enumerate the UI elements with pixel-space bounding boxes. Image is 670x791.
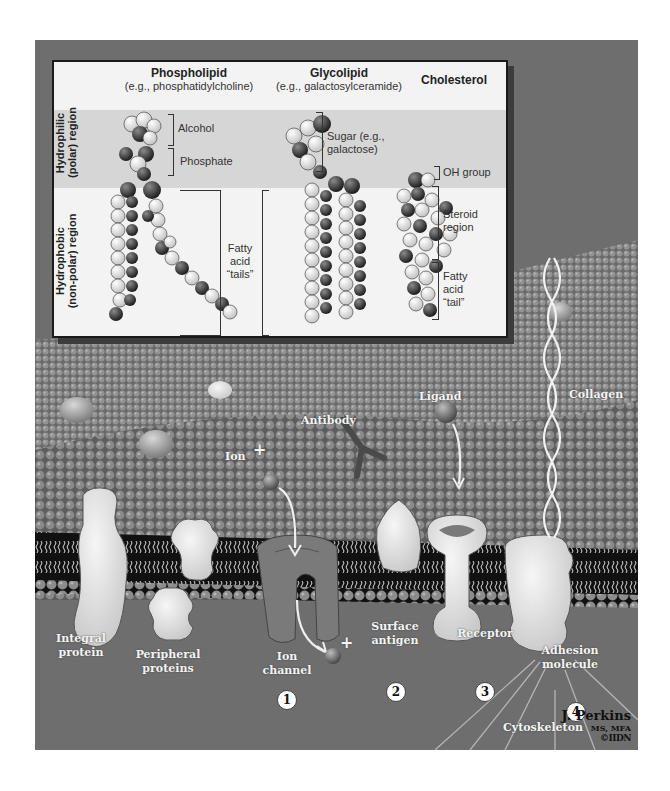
integral-protein-label: Integral protein — [51, 632, 111, 660]
ligand-label: Ligand — [419, 390, 461, 404]
callout-number-3: 3 — [475, 682, 495, 702]
label-line: Hydrophilic — [54, 108, 66, 178]
ion-label: Ion — [225, 450, 245, 464]
column-title: Glycolipid — [264, 66, 414, 80]
label-line: Hydrophobic — [54, 192, 66, 330]
column-cholesterol: Cholesterol — [404, 73, 504, 87]
antibody-label: Antibody — [301, 414, 356, 428]
fatty-acid-tails-label: Fatty acid “tails” — [224, 242, 256, 281]
column-subtitle: (e.g., phosphatidylcholine) — [114, 80, 264, 92]
collagen-label: Collagen — [569, 388, 623, 402]
alcohol-bracket — [168, 114, 174, 146]
fatty-acid-tails-bracket — [180, 190, 221, 336]
steroid-bracket — [432, 186, 439, 260]
label-line: Steroid — [443, 208, 478, 221]
artist-signature: J. Perkins MS, MFA ©IIDN — [555, 708, 631, 743]
label-line: Surface — [365, 620, 425, 634]
hydrophobic-region-label: Hydrophobic (non-polar) region — [54, 192, 78, 330]
artist-degrees: MS, MFA — [555, 723, 631, 733]
ion-charge-plus: + — [253, 443, 266, 457]
diagram-frame: Phospholipid (e.g., phosphatidylcholine)… — [35, 40, 638, 750]
label-line: acid — [224, 255, 256, 268]
peripheral-proteins-label: Peripheral proteins — [133, 648, 203, 676]
label-line: molecule — [540, 658, 600, 672]
surface-antigen-label: Surface antigen — [365, 620, 425, 648]
column-phospholipid: Phospholipid (e.g., phosphatidylcholine) — [114, 66, 264, 92]
label-line: (non-polar) region — [66, 192, 78, 330]
label-line: “tails” — [224, 268, 256, 281]
chol-tail-bracket — [432, 262, 439, 320]
column-title: Cholesterol — [404, 73, 504, 87]
ion-channel-label: Ion channel — [257, 650, 317, 678]
column-title: Phospholipid — [114, 66, 264, 80]
label-line: acid — [443, 283, 467, 296]
hydrophilic-region-label: Hydrophilic (polar) region — [54, 108, 78, 178]
phosphate-label: Phosphate — [180, 155, 233, 168]
adhesion-molecule-label: Adhesion molecule — [540, 644, 600, 672]
label-line: channel — [257, 664, 317, 678]
publisher-logo: ©IIDN — [555, 733, 631, 743]
label-line: region — [443, 221, 478, 234]
artist-name: J. Perkins — [555, 708, 631, 723]
column-glycolipid: Glycolipid (e.g., galactosylceramide) — [264, 66, 414, 92]
label-line: Integral — [51, 632, 111, 646]
label-line: (polar) region — [66, 108, 78, 178]
label-line: Peripheral — [133, 648, 203, 662]
cholesterol-tail-label: Fatty acid “tail” — [443, 270, 467, 309]
label-line: “tail” — [443, 296, 467, 309]
label-line: Ion — [257, 650, 317, 664]
label-line: protein — [51, 646, 111, 660]
label-line: proteins — [133, 662, 203, 676]
label-line: galactose) — [327, 143, 384, 156]
alcohol-label: Alcohol — [178, 122, 214, 135]
label-line: Fatty — [224, 242, 256, 255]
sugar-bracket — [316, 112, 323, 172]
label-line: Adhesion — [540, 644, 600, 658]
callout-number-2: 2 — [386, 682, 406, 702]
callout-number-1: 1 — [277, 690, 297, 710]
oh-group-bracket — [434, 166, 440, 180]
ion-charge-plus-out: + — [340, 636, 353, 650]
oh-group-label: OH group — [443, 166, 491, 179]
glycolipid-tails-bracket — [262, 190, 269, 336]
label-line: Fatty — [443, 270, 467, 283]
lipid-structures-inset: Phospholipid (e.g., phosphatidylcholine)… — [52, 60, 508, 338]
sugar-label: Sugar (e.g., galactose) — [327, 130, 384, 156]
label-line: Sugar (e.g., — [327, 130, 384, 143]
steroid-region-label: Steroid region — [443, 208, 478, 234]
column-subtitle: (e.g., galactosylceramide) — [264, 80, 414, 92]
receptor-label: Receptor — [455, 627, 515, 641]
phosphate-bracket — [168, 148, 174, 176]
label-line: antigen — [365, 634, 425, 648]
